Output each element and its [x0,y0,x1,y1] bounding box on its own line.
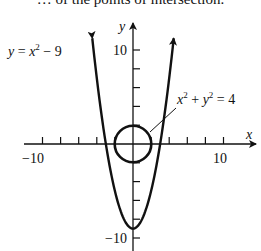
x-tick-label-neg10: −10 [22,151,44,166]
y-tick-label-neg10: −10 [105,231,127,246]
x-axis-label: x [245,127,253,142]
circle-eq-rest: = 4 [213,92,235,107]
y-axis-label: y [117,19,126,34]
y-tick-label-10: 10 [113,43,127,58]
parabola-equation-label: y = x2 − 9 [6,42,62,59]
circle-eq-plus: + [188,92,203,107]
x-tick-label-10: 10 [213,151,227,166]
circle-equation-label: x2 + y2 = 4 [176,90,235,107]
parabola-eq-rest: − 9 [40,44,62,59]
graph: y x 10 −10 −10 10 y = x2 − 9 x2 + y2 = 4 [0,0,261,251]
parabola-eq-equals: = [14,44,29,59]
